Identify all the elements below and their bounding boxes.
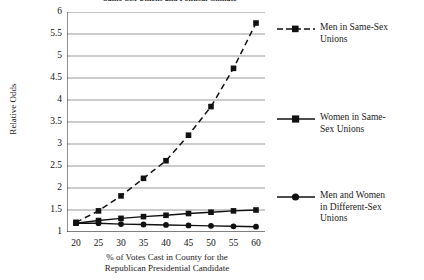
y-tick-label: 4	[57, 95, 62, 105]
legend-label-line1: Men in Same-Sex	[320, 22, 388, 34]
y-tick-label: 1	[57, 227, 62, 237]
x-tick-label: 25	[94, 239, 104, 249]
x-tick-label: 30	[116, 239, 126, 249]
legend-label-line1: Men and Women	[320, 190, 385, 202]
legend-symbol-solid-square	[276, 114, 316, 124]
legend-label-women-same-sex: Women in Same- Sex Unions	[316, 112, 386, 135]
x-tick-label: 45	[184, 239, 194, 249]
y-tick-label: 3.5	[50, 117, 62, 127]
legend-item-women-same-sex: Women in Same- Sex Unions	[276, 112, 424, 135]
legend-item-men-same-sex: Men in Same-Sex Unions	[276, 22, 424, 45]
y-tick-label: 5.5	[50, 29, 62, 39]
legend-label-line3: Unions	[320, 213, 385, 225]
gridlines	[67, 12, 265, 232]
chart-title: Same-Sex Unions and Political Climate	[60, 0, 280, 1]
x-tick-label: 40	[161, 239, 171, 249]
y-tick-label: 2	[57, 183, 62, 193]
legend-item-different-sex: Men and Women in Different-Sex Unions	[276, 190, 424, 225]
x-axis-title-line1: % of Votes Cast in County for the	[47, 252, 287, 263]
x-tick-label: 60	[251, 239, 261, 249]
legend-symbol-dashed-square	[276, 24, 316, 34]
legend-symbol-solid-circle	[276, 192, 316, 202]
y-axis-title: Relative Odds	[8, 64, 18, 154]
x-axis-title: % of Votes Cast in County for the Republ…	[47, 252, 287, 274]
legend-label-line2: in Different-Sex	[320, 202, 385, 214]
y-tick-label: 5	[57, 51, 62, 61]
legend-label-line2: Sex Unions	[320, 124, 386, 136]
legend: Men in Same-Sex Unions Women in Same- Se…	[276, 0, 424, 280]
y-tick-label: 1.5	[50, 205, 62, 215]
legend-label-men-same-sex: Men in Same-Sex Unions	[316, 22, 388, 45]
x-tick-label: 35	[139, 239, 149, 249]
legend-label-line2: Unions	[320, 34, 388, 46]
x-axis-title-line2: Republican Presidential Candidate	[47, 263, 287, 274]
data-series-layer	[73, 20, 259, 229]
legend-label-different-sex: Men and Women in Different-Sex Unions	[316, 190, 385, 225]
y-tick-label: 4.5	[50, 73, 62, 83]
chart-figure: Same-Sex Unions and Political Climate Re…	[0, 0, 424, 280]
y-tick-label: 6	[57, 7, 62, 17]
y-tick-label: 2.5	[50, 161, 62, 171]
y-tick-label: 3	[57, 139, 62, 149]
legend-label-line1: Women in Same-	[320, 112, 386, 124]
plot-svg	[67, 12, 265, 232]
x-tick-label: 55	[229, 239, 239, 249]
plot-area: 65.554.543.532.521.51 202530354045505560	[67, 12, 265, 232]
x-tick-label: 50	[206, 239, 216, 249]
x-tick-label: 20	[71, 239, 81, 249]
